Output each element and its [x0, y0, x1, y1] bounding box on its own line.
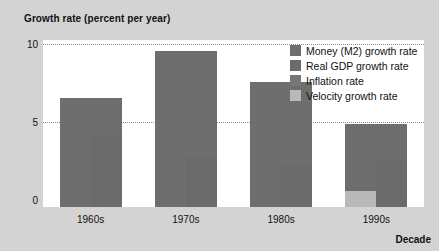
legend-swatch-icon	[290, 75, 301, 86]
bar-real-gdp	[186, 157, 217, 207]
chart-legend: Money (M2) growth rateReal GDP growth ra…	[290, 44, 417, 102]
x-tick-label: 1970s	[172, 214, 199, 225]
x-tick-label: 1990s	[363, 214, 390, 225]
x-axis-title: Decade	[395, 234, 431, 245]
x-tick-label: 1960s	[77, 214, 104, 225]
bar-velocity	[345, 191, 376, 207]
y-tick-label: 10	[27, 39, 38, 50]
bar-real-gdp	[91, 135, 122, 207]
legend-item: Real GDP growth rate	[290, 59, 417, 72]
legend-label: Money (M2) growth rate	[306, 45, 417, 57]
legend-item: Inflation rate	[290, 74, 417, 87]
x-tick-label: 1980s	[268, 214, 295, 225]
legend-swatch-icon	[290, 90, 301, 101]
legend-swatch-icon	[290, 45, 301, 56]
chart-figure: Growth rate (percent per year) 05101960s…	[0, 0, 439, 251]
bar-group: 1970s	[155, 40, 217, 207]
bar-real-gdp	[376, 160, 407, 207]
y-axis-title: Growth rate (percent per year)	[24, 13, 170, 24]
bar-real-gdp	[281, 165, 312, 207]
legend-swatch-icon	[290, 60, 301, 71]
legend-label: Velocity growth rate	[306, 90, 398, 102]
legend-label: Real GDP growth rate	[306, 60, 409, 72]
legend-item: Money (M2) growth rate	[290, 44, 417, 57]
legend-label: Inflation rate	[306, 75, 364, 87]
legend-item: Velocity growth rate	[290, 89, 417, 102]
y-tick-label: 5	[32, 117, 38, 128]
bar-group: 1960s	[60, 40, 122, 207]
y-tick-label: 0	[32, 195, 38, 206]
